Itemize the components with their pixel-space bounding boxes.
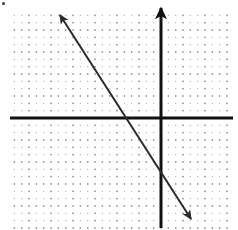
grid-dot: [226, 81, 228, 83]
grid-dot: [21, 213, 22, 214]
grid-dot: [36, 110, 37, 111]
grid-dot: [28, 205, 30, 207]
grid-dot: [226, 205, 228, 207]
grid-dot: [87, 205, 89, 207]
grid-dot: [175, 15, 176, 16]
grid-dot: [212, 227, 214, 229]
grid-dot: [50, 73, 52, 75]
grid-dot: [102, 59, 103, 60]
grid-dot: [146, 51, 148, 53]
grid-dot: [168, 147, 169, 148]
grid-dot: [190, 191, 191, 192]
grid-dot: [21, 191, 22, 192]
grid-dot: [146, 103, 147, 104]
grid-dot: [50, 29, 52, 31]
grid-dot: [138, 220, 140, 222]
grid-dot: [204, 139, 206, 141]
grid-dot: [138, 95, 140, 97]
grid-dot: [219, 227, 221, 229]
grid-dot: [175, 183, 177, 185]
grid-dot: [102, 44, 103, 45]
grid-dot: [190, 37, 191, 38]
grid-dot: [72, 15, 74, 17]
grid-dot: [36, 37, 37, 38]
grid-dot: [182, 88, 184, 90]
grid-dot: [131, 191, 132, 192]
grid-dot: [116, 37, 118, 39]
grid-dot: [58, 154, 59, 155]
grid-dot: [94, 169, 96, 171]
grid-dot: [94, 176, 96, 178]
grid-dot: [204, 198, 206, 200]
grid-dot: [80, 66, 81, 67]
grid-dot: [80, 183, 82, 185]
grid-dot: [65, 183, 67, 185]
grid-dot: [182, 139, 184, 141]
grid-dot: [58, 132, 59, 133]
grid-dot: [124, 205, 126, 207]
grid-dot: [28, 227, 30, 229]
grid-dot: [94, 95, 96, 97]
grid-dot: [168, 81, 169, 82]
grid-dot: [124, 103, 125, 104]
grid-dot: [197, 198, 198, 199]
grid-dot: [102, 73, 104, 75]
grid-dot: [58, 103, 59, 104]
grid-dot: [197, 213, 198, 214]
grid-dot: [197, 37, 198, 38]
grid-dot: [175, 66, 176, 67]
grid-dot: [153, 220, 154, 221]
grid-dot: [124, 110, 125, 111]
grid-dot: [72, 51, 74, 53]
grid-dot: [146, 59, 147, 60]
grid-dot: [204, 213, 206, 215]
grid-dot: [36, 132, 37, 133]
grid-dot: [226, 176, 228, 178]
grid-dot: [116, 132, 118, 134]
grid-dot: [21, 73, 23, 75]
grid-dot: [168, 139, 170, 141]
grid-dot: [197, 73, 199, 75]
grid-dot: [153, 29, 155, 31]
grid-dot: [131, 213, 132, 214]
grid-dot: [65, 59, 66, 60]
grid-dot: [58, 29, 60, 31]
grid-dot: [36, 66, 37, 67]
grid-dot: [102, 22, 103, 23]
grid-dot: [28, 139, 30, 141]
grid-dot: [190, 132, 191, 133]
grid-dot: [58, 81, 59, 82]
grid-dot: [50, 88, 52, 90]
grid-dot: [226, 147, 228, 149]
grid-dot: [58, 95, 60, 97]
grid-dot: [131, 169, 132, 170]
graph-canvas: [0, 0, 238, 230]
grid-dot: [219, 15, 220, 16]
grid-dot: [138, 51, 140, 53]
grid-dot: [109, 191, 110, 192]
grid-dot: [204, 81, 206, 83]
grid-dot: [131, 81, 132, 82]
grid-dot: [138, 110, 140, 112]
grid-dot: [21, 95, 23, 97]
grid-dot: [36, 213, 37, 214]
grid-dot: [116, 213, 118, 215]
grid-dot: [212, 132, 213, 133]
grid-dot: [204, 95, 206, 97]
grid-dot: [14, 220, 15, 221]
grid-dot: [116, 169, 118, 171]
grid-dot: [168, 44, 169, 45]
grid-dot: [168, 125, 169, 126]
grid-dot: [168, 213, 169, 214]
grid-dot: [28, 29, 30, 31]
grid-dot: [131, 29, 133, 31]
grid-dot: [190, 183, 192, 185]
grid-dot: [102, 147, 103, 148]
grid-dot: [124, 44, 125, 45]
grid-dot: [124, 95, 126, 97]
grid-dot: [204, 169, 206, 171]
grid-dot: [175, 29, 177, 31]
grid-dot: [131, 44, 132, 45]
grid-dot: [212, 154, 213, 155]
grid-dot: [50, 154, 52, 156]
